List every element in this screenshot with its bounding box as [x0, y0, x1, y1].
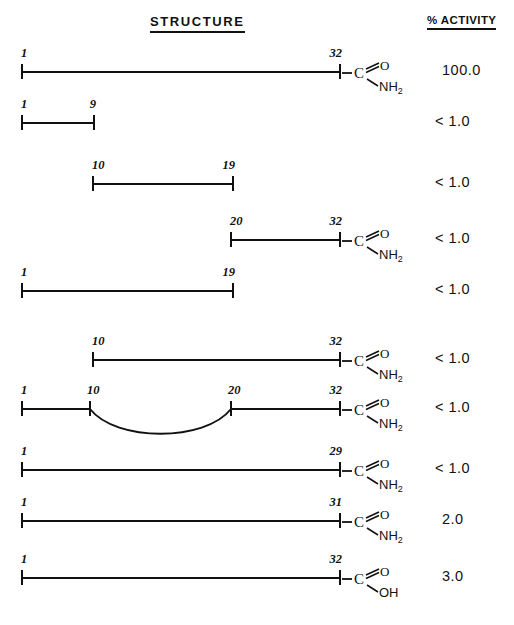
residue-number-label: 1 [21, 495, 27, 510]
residue-tick [21, 401, 23, 416]
residue-number-label: 32 [322, 46, 342, 61]
peptide-chain-bar [22, 290, 233, 292]
residue-tick [339, 232, 341, 247]
svg-text:O: O [380, 226, 389, 241]
svg-text:NH2: NH2 [379, 79, 403, 96]
c-terminal-group: CONH2 [342, 58, 420, 104]
c-terminal-group: COOH [342, 564, 420, 610]
peptide-chain-bar [22, 71, 340, 73]
activity-value: < 1.0 [435, 460, 470, 476]
c-terminal-group: CONH2 [342, 226, 420, 272]
peptide-chain-bar [22, 469, 340, 471]
svg-text:O: O [380, 346, 389, 361]
svg-text:O: O [380, 456, 389, 471]
residue-number-label: 1 [21, 552, 27, 567]
svg-text:NH2: NH2 [379, 247, 403, 264]
column-header-structure-label: STRUCTURE [150, 14, 245, 33]
svg-text:O: O [380, 58, 389, 73]
svg-text:C: C [354, 514, 364, 530]
svg-text:C: C [354, 353, 364, 369]
svg-text:C: C [354, 65, 364, 81]
residue-number-label: 1 [21, 46, 27, 61]
residue-number-label: 20 [228, 383, 241, 398]
residue-tick [339, 513, 341, 528]
svg-text:C: C [354, 571, 364, 587]
residue-tick [339, 401, 341, 416]
c-terminal-group: CONH2 [342, 456, 420, 502]
residue-tick [21, 513, 23, 528]
svg-text:NH2: NH2 [379, 367, 403, 384]
residue-tick [232, 283, 234, 298]
residue-number-label: 32 [322, 334, 342, 349]
residue-tick [339, 462, 341, 477]
residue-tick [92, 352, 94, 367]
residue-number-label: 10 [92, 334, 105, 349]
residue-tick [21, 462, 23, 477]
residue-number-label: 10 [92, 158, 105, 173]
residue-tick [93, 115, 95, 130]
activity-value: < 1.0 [435, 281, 470, 297]
c-terminal-group: CONH2 [342, 395, 420, 441]
activity-value: < 1.0 [435, 174, 470, 190]
residue-tick [339, 570, 341, 585]
residue-number-label: 29 [322, 444, 342, 459]
residue-number-label: 1 [21, 444, 27, 459]
svg-text:C: C [354, 233, 364, 249]
peptide-chain-bar [22, 520, 340, 522]
residue-tick [230, 401, 232, 416]
residue-number-label: 19 [215, 158, 235, 173]
residue-number-label: 10 [87, 383, 100, 398]
peptide-chain-bar [231, 408, 340, 410]
residue-number-label: 20 [230, 214, 243, 229]
column-header-activity: % ACTIVITY [427, 14, 496, 30]
column-header-structure: STRUCTURE [150, 14, 245, 33]
svg-text:C: C [354, 402, 364, 418]
activity-value: 3.0 [442, 568, 464, 584]
residue-tick [339, 64, 341, 79]
peptide-chain-bar [93, 183, 233, 185]
residue-tick [230, 232, 232, 247]
residue-number-label: 32 [322, 383, 342, 398]
residue-tick [92, 176, 94, 191]
residue-number-label: 32 [322, 214, 342, 229]
svg-text:O: O [380, 564, 389, 579]
activity-value: < 1.0 [435, 399, 470, 415]
residue-number-label: 31 [322, 495, 342, 510]
peptide-structure-activity-figure: STRUCTURE % ACTIVITY 132CONH2100.019< 1.… [0, 0, 514, 625]
residue-tick [232, 176, 234, 191]
residue-tick [21, 283, 23, 298]
residue-tick [21, 115, 23, 130]
residue-tick [89, 401, 91, 416]
svg-text:NH2: NH2 [379, 528, 403, 545]
activity-value: 100.0 [442, 62, 481, 78]
residue-tick [21, 570, 23, 585]
residue-tick [339, 352, 341, 367]
peptide-chain-bar [22, 408, 90, 410]
c-terminal-group: CONH2 [342, 507, 420, 553]
residue-tick [21, 64, 23, 79]
svg-text:NH2: NH2 [379, 477, 403, 494]
residue-number-label: 19 [215, 265, 235, 280]
svg-text:C: C [354, 463, 364, 479]
residue-number-label: 1 [21, 383, 27, 398]
activity-value: < 1.0 [435, 113, 470, 129]
svg-text:OH: OH [379, 585, 399, 600]
activity-value: 2.0 [442, 511, 464, 527]
svg-text:O: O [380, 395, 389, 410]
c-terminal-group: CONH2 [342, 346, 420, 392]
peptide-chain-bar [93, 359, 340, 361]
residue-number-label: 32 [322, 552, 342, 567]
svg-text:NH2: NH2 [379, 416, 403, 433]
peptide-chain-bar [22, 577, 340, 579]
peptide-chain-bar [22, 122, 94, 124]
residue-number-label: 1 [21, 265, 27, 280]
residue-number-label: 1 [21, 97, 27, 112]
peptide-chain-bar [231, 239, 340, 241]
activity-value: < 1.0 [435, 350, 470, 366]
residue-number-label: 9 [76, 97, 96, 112]
activity-value: < 1.0 [435, 230, 470, 246]
column-header-activity-label: % ACTIVITY [427, 14, 496, 30]
svg-text:O: O [380, 507, 389, 522]
